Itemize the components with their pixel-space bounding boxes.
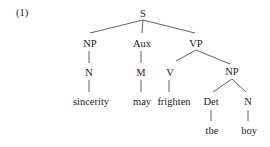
node-n-object: N [244, 97, 252, 108]
node-vp: VP [189, 39, 202, 50]
node-aux: Aux [133, 39, 151, 50]
leaf-sincerity: sincerity [73, 97, 109, 108]
branch-vp-v [176, 50, 196, 61]
node-s: S [140, 9, 146, 20]
node-det: Det [203, 97, 218, 108]
branch-np-det [213, 79, 232, 92]
branch-s-vp [143, 20, 195, 33]
node-v: V [166, 68, 174, 79]
branch-s-aux [142, 20, 143, 33]
branch-np-n2 [232, 79, 246, 92]
leaf-boy: boy [241, 126, 257, 137]
branch-s-np [90, 20, 143, 33]
leaf-frighten: frighten [157, 97, 190, 108]
example-number: (1) [16, 8, 28, 19]
node-n-subject: N [85, 68, 93, 79]
node-np-object: NP [225, 67, 238, 78]
leaf-may: may [133, 97, 151, 108]
node-m: M [136, 68, 145, 79]
leaf-the: the [206, 126, 219, 137]
syntax-tree-diagram: (1) S NP Aux VP N M V NP sincerity may f… [0, 0, 270, 147]
node-np-subject: NP [83, 39, 96, 50]
branch-vp-np [196, 50, 230, 64]
